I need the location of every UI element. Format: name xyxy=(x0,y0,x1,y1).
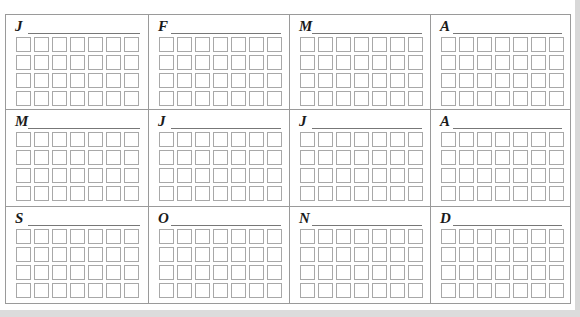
day-box xyxy=(106,73,121,88)
day-box xyxy=(300,168,315,183)
day-box xyxy=(70,91,85,106)
day-box xyxy=(231,37,246,52)
day-box-grid xyxy=(441,37,564,106)
day-box xyxy=(441,132,456,147)
month-name-writing-line xyxy=(312,33,422,34)
day-box xyxy=(372,168,387,183)
day-box xyxy=(336,73,351,88)
month-name-writing-line xyxy=(312,225,422,226)
day-box xyxy=(318,73,333,88)
day-box xyxy=(195,91,210,106)
day-box xyxy=(477,73,492,88)
day-box xyxy=(300,73,315,88)
day-box xyxy=(354,73,369,88)
month-block: J xyxy=(290,110,431,207)
day-box xyxy=(372,283,387,298)
day-box xyxy=(300,283,315,298)
day-box xyxy=(213,37,228,52)
day-box xyxy=(495,37,510,52)
day-box xyxy=(195,229,210,244)
day-box xyxy=(513,150,528,165)
day-box xyxy=(124,132,139,147)
day-box xyxy=(16,283,31,298)
day-box xyxy=(34,168,49,183)
day-box xyxy=(372,55,387,70)
day-box xyxy=(354,229,369,244)
day-box xyxy=(106,150,121,165)
day-box xyxy=(549,132,564,147)
day-box xyxy=(249,91,264,106)
day-box xyxy=(88,283,103,298)
day-box xyxy=(549,150,564,165)
day-box xyxy=(213,247,228,262)
day-box xyxy=(88,91,103,106)
month-block: J xyxy=(6,15,149,110)
day-box xyxy=(477,229,492,244)
day-box xyxy=(267,150,282,165)
day-box xyxy=(267,265,282,280)
day-box xyxy=(34,229,49,244)
day-box xyxy=(318,265,333,280)
day-box xyxy=(459,55,474,70)
day-box xyxy=(70,283,85,298)
day-box xyxy=(213,168,228,183)
day-box xyxy=(231,150,246,165)
month-initial: O xyxy=(158,209,169,227)
day-box xyxy=(213,283,228,298)
day-box xyxy=(52,37,67,52)
day-box xyxy=(177,132,192,147)
day-box xyxy=(549,55,564,70)
day-box xyxy=(159,283,174,298)
day-box xyxy=(195,37,210,52)
day-box xyxy=(459,91,474,106)
day-box xyxy=(300,91,315,106)
day-box xyxy=(477,37,492,52)
day-box xyxy=(441,37,456,52)
day-box xyxy=(70,132,85,147)
day-box xyxy=(354,37,369,52)
day-box xyxy=(159,55,174,70)
day-box-grid xyxy=(159,132,282,201)
day-box xyxy=(52,283,67,298)
month-initial: N xyxy=(299,209,310,227)
day-box xyxy=(16,73,31,88)
day-box xyxy=(52,132,67,147)
day-box xyxy=(195,186,210,201)
day-box-grid xyxy=(300,37,423,106)
day-box xyxy=(354,55,369,70)
day-box xyxy=(477,283,492,298)
day-box xyxy=(513,91,528,106)
day-box xyxy=(16,229,31,244)
day-box xyxy=(231,283,246,298)
day-box xyxy=(318,186,333,201)
day-box xyxy=(372,229,387,244)
day-box xyxy=(459,132,474,147)
day-box xyxy=(267,247,282,262)
day-box xyxy=(267,168,282,183)
day-box xyxy=(495,73,510,88)
day-box xyxy=(106,283,121,298)
day-box xyxy=(34,73,49,88)
day-box-grid xyxy=(159,229,282,298)
day-box xyxy=(372,91,387,106)
day-box xyxy=(336,247,351,262)
day-box xyxy=(372,132,387,147)
day-box xyxy=(159,132,174,147)
day-box xyxy=(34,283,49,298)
day-box xyxy=(159,186,174,201)
day-box xyxy=(477,91,492,106)
day-box xyxy=(88,37,103,52)
day-box xyxy=(549,283,564,298)
day-box xyxy=(124,168,139,183)
day-box xyxy=(16,186,31,201)
day-box xyxy=(267,229,282,244)
day-box xyxy=(408,132,423,147)
day-box xyxy=(52,168,67,183)
day-box xyxy=(531,55,546,70)
day-box xyxy=(390,265,405,280)
day-box xyxy=(513,247,528,262)
day-box xyxy=(231,186,246,201)
day-box xyxy=(177,55,192,70)
day-box xyxy=(16,91,31,106)
day-box xyxy=(354,247,369,262)
